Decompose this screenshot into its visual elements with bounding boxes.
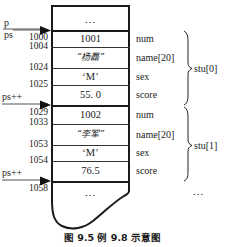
field-label-stu1-score: score — [136, 166, 157, 176]
pointer-label-p: p — [4, 18, 9, 28]
field-label-stu0-num: num — [136, 34, 154, 44]
tail-ellipsis: ... — [193, 186, 204, 197]
address-1033: 1033 — [18, 118, 48, 128]
field-label-stu1-sex: sex — [136, 148, 149, 158]
cell-divider-1053 — [51, 145, 130, 146]
address-1058: 1058 — [18, 184, 48, 194]
cell-top-ellipsis: ... — [51, 14, 130, 25]
cell-divider-1058 — [51, 181, 130, 183]
cell-divider-1025 — [51, 85, 130, 86]
address-1004: 1004 — [18, 42, 48, 52]
cell-stu1-name: “李军” — [51, 130, 130, 139]
address-1025: 1025 — [18, 80, 48, 90]
cell-divider-1029 — [51, 105, 130, 107]
field-label-stu0-sex: sex — [136, 72, 149, 82]
group-label-stu1: stu[1] — [194, 141, 217, 151]
cell-bottom-ellipsis: ... — [51, 187, 130, 198]
pointer-label-ps-inc-1: ps++ — [2, 92, 22, 102]
cell-stu1-num: 1002 — [51, 110, 130, 121]
cell-stu1-sex: ‘M’ — [51, 148, 130, 159]
cell-stu0-sex: ‘M’ — [51, 72, 130, 83]
cell-stu0-score: 55. 0 — [51, 90, 130, 101]
cell-stu1-score: 76.5 — [51, 166, 130, 177]
cell-divider-1024 — [51, 68, 130, 69]
field-label-stu1-name: name[20] — [136, 130, 174, 140]
cell-divider-1033 — [51, 124, 130, 125]
field-label-stu1-num: num — [136, 110, 154, 120]
cell-stu0-num: 1001 — [51, 34, 130, 45]
address-1024: 1024 — [18, 63, 48, 73]
figure-caption: 图 9.5 例 9.8 示意图 — [0, 233, 225, 243]
cell-divider-1054 — [51, 161, 130, 162]
pointer-label-ps-inc-2: ps++ — [2, 168, 22, 178]
address-1053: 1053 — [18, 140, 48, 150]
pointer-label-ps: ps — [4, 30, 13, 40]
cell-divider-1000 — [51, 30, 130, 32]
memory-layout-figure: ... 1001 “杨磊” ‘M’ 55. 0 1002 “李军” ‘M’ 76… — [0, 0, 225, 247]
field-label-stu0-score: score — [136, 90, 157, 100]
brace-stu0 — [184, 31, 192, 105]
cell-stu0-name: “杨磊” — [51, 53, 130, 62]
brace-stu1 — [184, 107, 192, 181]
field-label-stu0-name: name[20] — [136, 53, 174, 63]
address-1054: 1054 — [18, 156, 48, 166]
cell-divider-1004 — [51, 47, 130, 48]
group-label-stu0: stu[0] — [194, 64, 217, 74]
